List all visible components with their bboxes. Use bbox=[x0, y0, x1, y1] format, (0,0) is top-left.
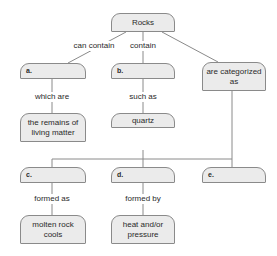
node-molten-text: molten rock cools bbox=[24, 220, 82, 240]
node-are-categorized-as: are categorized as bbox=[202, 62, 266, 91]
node-b-label: b. bbox=[117, 66, 123, 76]
node-c-label: c. bbox=[26, 170, 32, 180]
node-rocks-text: Rocks bbox=[132, 18, 154, 28]
node-rocks: Rocks bbox=[111, 13, 175, 32]
node-remains-text: the remains of living matter bbox=[24, 118, 82, 138]
node-heat-and-pressure: heat and/or pressure bbox=[111, 215, 175, 244]
node-c: c. bbox=[20, 167, 86, 183]
node-quartz-text: quartz bbox=[132, 116, 154, 126]
node-e-label: e. bbox=[208, 170, 214, 180]
link-label-formed-by: formed by bbox=[124, 194, 162, 204]
edge-rocks-categorized bbox=[162, 32, 218, 62]
node-b: b. bbox=[111, 63, 175, 79]
node-a: a. bbox=[20, 63, 86, 79]
node-heat-text: heat and/or pressure bbox=[115, 220, 171, 240]
link-label-which-are: which are bbox=[34, 92, 70, 102]
link-label-such-as: such as bbox=[128, 92, 158, 102]
node-d-label: d. bbox=[117, 170, 123, 180]
link-label-can-contain: can contain bbox=[73, 41, 116, 51]
node-a-label: a. bbox=[26, 66, 32, 76]
node-d: d. bbox=[111, 167, 175, 183]
link-label-contain: contain bbox=[129, 41, 157, 51]
node-remains-of-living-matter: the remains of living matter bbox=[20, 113, 86, 142]
link-label-formed-as: formed as bbox=[33, 194, 71, 204]
node-categorized-text: are categorized as bbox=[206, 67, 262, 87]
node-quartz: quartz bbox=[111, 113, 175, 128]
node-e: e. bbox=[202, 167, 266, 183]
node-molten-rock-cools: molten rock cools bbox=[20, 215, 86, 244]
